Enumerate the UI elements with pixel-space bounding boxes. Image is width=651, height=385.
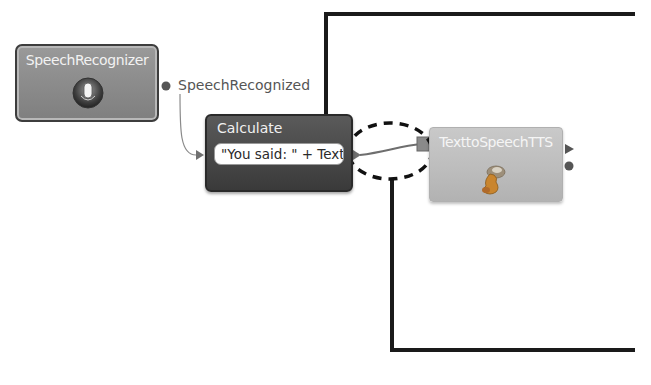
output-port-speech-recognized[interactable] [162, 82, 171, 91]
node-title: TexttoSpeechTTS [430, 134, 562, 150]
node-speech-recognizer[interactable]: SpeechRecognizer [15, 44, 159, 122]
microphone-icon [71, 76, 105, 110]
callout-line-bottom [392, 180, 635, 350]
output-port-tts-arrow[interactable] [565, 144, 574, 154]
speaker-icon [472, 158, 512, 198]
node-title: SpeechRecognizer [17, 52, 157, 68]
output-port-calculate[interactable] [353, 150, 361, 160]
expression-field[interactable]: "You said: " + Text [214, 143, 344, 165]
diagram-canvas: SpeechRecognizer SpeechRecognized Calcul… [0, 0, 651, 385]
connector-speechrecognized-to-calculate [180, 94, 196, 155]
port-label-speech-recognized: SpeechRecognized [178, 77, 310, 93]
connector-calculate-to-tts [360, 144, 421, 155]
output-port-tts-dot[interactable] [565, 162, 574, 171]
input-port-calculate[interactable] [196, 150, 204, 160]
node-title: Calculate [217, 120, 282, 136]
node-text-to-speech[interactable]: TexttoSpeechTTS [429, 127, 563, 202]
node-calculate[interactable]: Calculate "You said: " + Text [205, 114, 353, 192]
